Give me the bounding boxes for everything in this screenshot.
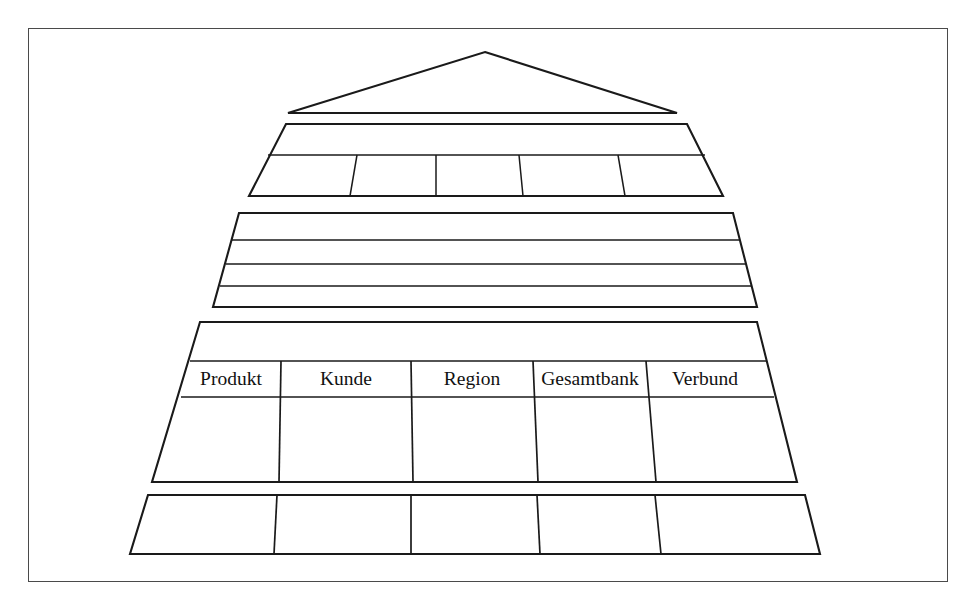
level-4-label-produkt: Produkt	[200, 368, 262, 389]
pyramid-level-2	[249, 124, 723, 196]
level-4-label-region: Region	[444, 368, 501, 389]
level-3-outline	[213, 213, 757, 307]
pyramid-level-3	[213, 213, 757, 307]
pyramid-diagram: Produkt Kunde Region Gesamtbank Verbund	[0, 0, 980, 602]
level-4-outline	[152, 322, 797, 482]
pyramid-level-5	[130, 495, 820, 554]
apex-triangle	[288, 52, 677, 113]
level-5-outline	[130, 495, 820, 554]
pyramid-level-4: Produkt Kunde Region Gesamtbank Verbund	[152, 322, 797, 482]
level-4-label-kunde: Kunde	[320, 368, 372, 389]
pyramid-level-apex	[288, 52, 677, 113]
level-4-label-gesamtbank: Gesamtbank	[541, 368, 639, 389]
level-4-label-verbund: Verbund	[672, 368, 738, 389]
page-root: Produkt Kunde Region Gesamtbank Verbund	[0, 0, 980, 602]
level-2-outline	[249, 124, 723, 196]
